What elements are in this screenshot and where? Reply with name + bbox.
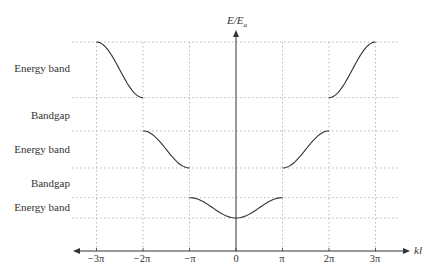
band-curve-4 (329, 42, 376, 98)
y-axis-arrow-icon (233, 30, 239, 37)
x-axis-label: kl (414, 244, 422, 256)
plot-area (0, 0, 436, 276)
row-label-energy-band-3: Energy band (14, 62, 70, 74)
row-label-bandgap-2: Bandgap (31, 109, 70, 121)
x-axis-left-arrow-icon (73, 248, 80, 254)
x-axis-right-arrow-icon (403, 248, 410, 254)
row-label-bandgap-1: Bandgap (31, 177, 70, 189)
row-label-energy-band-1: Energy band (14, 201, 70, 213)
band-curve-3 (97, 42, 144, 98)
x-tick-pi: π (279, 253, 284, 264)
band-curve-1 (143, 131, 190, 168)
y-axis-label-sub: a (244, 21, 248, 29)
y-axis-label: E/Ea (227, 14, 247, 29)
x-tick-neg-pi: −π (184, 253, 195, 264)
x-tick-2pi: 2π (324, 253, 335, 264)
x-tick-3pi: 3π (370, 253, 381, 264)
axes (73, 30, 410, 254)
x-tick-neg-3pi: −3π (88, 253, 104, 264)
band-structure-figure: Energy band Bandgap Energy band Bandgap … (0, 0, 436, 276)
row-label-energy-band-2: Energy band (14, 143, 70, 155)
x-tick-zero: 0 (233, 253, 238, 264)
y-axis-label-main: E/E (227, 14, 244, 26)
x-tick-neg-2pi: −2π (134, 253, 150, 264)
band-curve-2 (283, 131, 330, 168)
